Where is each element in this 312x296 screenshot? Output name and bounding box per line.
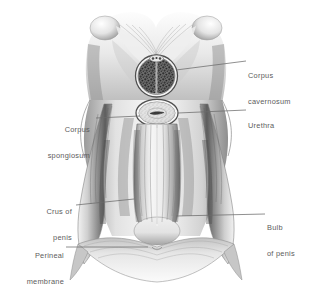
- label-perineal-membrane-line1: Perineal: [4, 252, 64, 261]
- label-perineal-membrane: Perineal membrane: [4, 235, 64, 296]
- label-bulb-of-penis: Bulb of penis: [267, 207, 295, 276]
- dorsal-artery-left: [152, 57, 155, 60]
- label-perineal-membrane-line2: membrane: [4, 278, 64, 287]
- dorsal-vein: [155, 57, 157, 59]
- corpus-cavernosum-section: [136, 55, 178, 97]
- left-pubic-tubercle: [90, 16, 120, 40]
- dorsal-artery-right: [159, 57, 162, 60]
- label-bulb-of-penis-line1: Bulb: [267, 224, 295, 233]
- label-corpus-spongiosum-line1: Corpus: [22, 126, 90, 135]
- label-urethra: Urethra: [248, 105, 274, 148]
- label-bulb-of-penis-line2: of penis: [267, 250, 295, 259]
- label-urethra-line1: Urethra: [248, 122, 274, 131]
- anatomical-figure: Corpus cavernosum Urethra Bulb of penis …: [0, 0, 312, 296]
- right-pubic-tubercle: [192, 16, 222, 40]
- label-corpus-spongiosum: Corpus spongiosum: [22, 109, 90, 178]
- label-corpus-cavernosum-line1: Corpus: [248, 72, 291, 81]
- bulb-of-penis-body: [133, 124, 182, 245]
- label-corpus-spongiosum-line2: spongiosum: [22, 152, 90, 161]
- label-crus-of-penis-line1: Crus of: [12, 208, 72, 217]
- corpus-spongiosum-section: [136, 99, 178, 126]
